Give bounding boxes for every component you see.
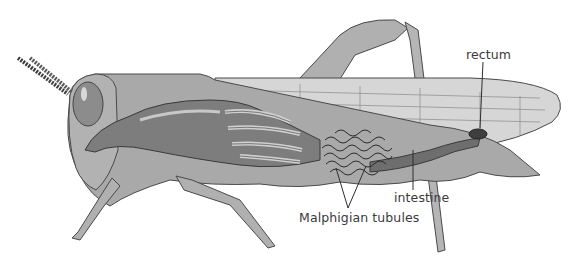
antenna — [18, 58, 68, 94]
grasshopper-illustration — [0, 0, 571, 270]
eye — [73, 82, 103, 126]
label-intestine: intestine — [394, 190, 449, 205]
label-rectum: rectum — [466, 47, 511, 62]
label-malphigian-tubules: Malphigian tubules — [299, 210, 419, 225]
rectum-shape — [469, 129, 487, 139]
grasshopper-diagram: rectum intestine Malphigian tubules — [0, 0, 571, 270]
